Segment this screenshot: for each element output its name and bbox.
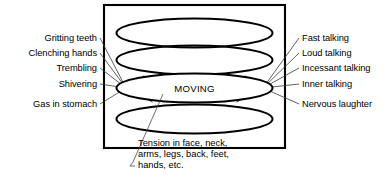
label-right-1: Fast talking — [302, 33, 349, 43]
ring-top — [117, 19, 273, 48]
core-label: MOVING — [174, 83, 215, 94]
label-left-5: Gas in stomach — [33, 99, 97, 109]
left-label-group: Gritting teethClenching handsTremblingSh… — [28, 33, 97, 109]
caption-leader-elbow — [130, 162, 133, 166]
label-left-4: Shivering — [59, 79, 97, 89]
label-left-2: Clenching hands — [28, 48, 97, 58]
moving-center-diagram: MOVING Gritting teethClenching handsTrem… — [0, 0, 389, 196]
ring-bottom — [117, 105, 273, 134]
ring-upper-mid — [117, 46, 273, 75]
caption-line-1: Tension in face, neck, — [138, 138, 227, 148]
label-left-1: Gritting teeth — [44, 33, 97, 43]
caption-line-3: hands, etc. — [138, 160, 183, 170]
label-left-3: Trembling — [56, 63, 97, 73]
label-right-4: Inner talking — [302, 79, 352, 89]
caption-text-group: Tension in face, neck,arms, legs, back, … — [138, 138, 229, 170]
diagram-canvas: MOVING Gritting teethClenching handsTrem… — [0, 0, 389, 196]
label-right-2: Loud talking — [302, 48, 352, 58]
leader-line-right — [263, 38, 299, 88]
caption-line-2: arms, legs, back, feet, — [138, 149, 229, 159]
label-right-3: Incessant talking — [302, 63, 370, 73]
label-right-5: Nervous laughter — [302, 99, 372, 109]
right-label-group: Fast talkingLoud talkingIncessant talkin… — [302, 33, 372, 109]
